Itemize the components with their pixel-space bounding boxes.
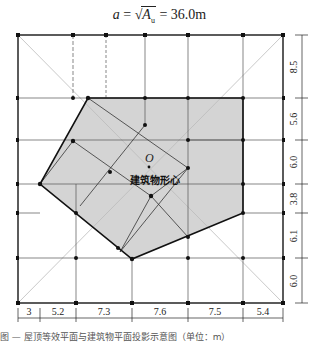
svg-text:6.1: 6.1	[288, 230, 299, 243]
origin-label: O	[145, 151, 154, 165]
svg-text:7.5: 7.5	[209, 306, 222, 317]
svg-text:5.2: 5.2	[52, 306, 65, 317]
bottom-dimension-labels: 3 5.2 7.3 7.6 7.5 5.4	[27, 306, 270, 317]
svg-text:5.4: 5.4	[257, 306, 270, 317]
svg-text:7.3: 7.3	[98, 306, 111, 317]
svg-text:8.5: 8.5	[288, 61, 299, 74]
svg-text:6.0: 6.0	[288, 275, 299, 288]
svg-text:6.0: 6.0	[288, 156, 299, 169]
figure-caption: 图 — 屋顶等效平面与建筑物平面投影示意图（单位：m）	[0, 330, 319, 343]
svg-text:3: 3	[27, 306, 32, 317]
svg-text:3.8: 3.8	[288, 193, 299, 206]
right-dimension-labels: 8.5 5.6 6.0 3.8 6.1 6.0	[288, 61, 299, 288]
svg-text:7.6: 7.6	[154, 306, 167, 317]
centroid-label: 建筑物形心	[129, 174, 180, 186]
svg-text:5.6: 5.6	[288, 113, 299, 126]
